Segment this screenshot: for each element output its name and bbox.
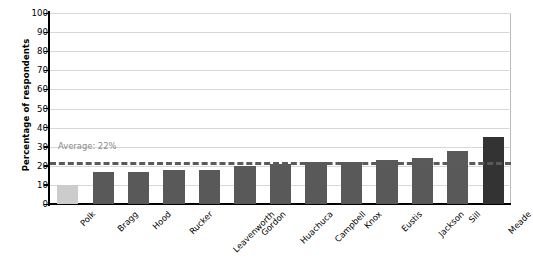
bar-bragg [93, 172, 114, 204]
bar-meade [483, 137, 504, 204]
x-axis-label-hood: Hood [150, 209, 173, 232]
x-axis-label-polk: Polk [78, 209, 97, 228]
x-axis-label-meade: Meade [506, 209, 533, 236]
y-tick-label: 100 [4, 8, 48, 18]
average-line-label: Average: 22% [58, 141, 117, 151]
bar-series [50, 13, 511, 204]
x-axis-label-jackson: Jackson [437, 209, 467, 239]
bar-rucker [163, 170, 184, 204]
bar-huachuca [270, 164, 291, 204]
x-axis-label-bragg: Bragg [116, 209, 141, 234]
y-tick-label: 50 [4, 104, 48, 114]
x-axis-label-campbell: Campbell [333, 209, 368, 244]
y-tick-label: 0 [4, 199, 48, 209]
x-axis-label-knox: Knox [362, 209, 384, 231]
bar-gordon [234, 166, 255, 204]
y-tick-label: 80 [4, 46, 48, 56]
bar-polk [57, 185, 78, 204]
bar-leavenworth [199, 170, 220, 204]
bar-hood [128, 172, 149, 204]
y-tick-label: 60 [4, 84, 48, 94]
y-tick-label: 20 [4, 161, 48, 171]
bar-jackson [412, 158, 433, 204]
average-line [50, 162, 511, 165]
bar-eustis [376, 160, 397, 204]
y-tick-label: 70 [4, 65, 48, 75]
x-axis-label-eustis: Eustis [399, 209, 424, 234]
bar-knox [341, 162, 362, 204]
bar-campbell [305, 162, 326, 204]
y-tick-label: 90 [4, 27, 48, 37]
x-axis-labels: PolkBraggHoodRuckerLeavenworthGordonHuac… [50, 206, 511, 279]
y-tick-label: 30 [4, 142, 48, 152]
y-tick-label: 10 [4, 180, 48, 190]
x-axis-label-sill: Sill [466, 209, 482, 225]
bar-sill [447, 151, 468, 204]
x-axis-label-rucker: Rucker [187, 209, 214, 236]
y-tick-label: 40 [4, 123, 48, 133]
x-axis-label-huachuca: Huachuca [298, 209, 335, 246]
